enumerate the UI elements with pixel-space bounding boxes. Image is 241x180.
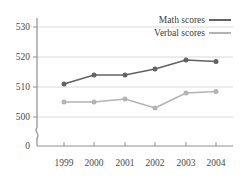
data-point (184, 58, 189, 63)
y-tick-label-520: 520 (16, 52, 31, 62)
data-point (92, 100, 97, 105)
x-tick-label-2003: 2003 (177, 158, 196, 168)
legend-label-math: Math scores (159, 15, 205, 25)
data-point (123, 97, 128, 102)
x-tick-label-2001: 2001 (116, 158, 135, 168)
legend-label-verbal: Verbal scores (154, 28, 205, 38)
y-tick-label-530: 530 (16, 22, 31, 32)
chart-canvas: 530 520 510 500 0 1999 2000 2001 2002 20… (0, 0, 241, 180)
y-tick-label-0: 0 (25, 141, 30, 151)
line-chart: 530 520 510 500 0 1999 2000 2001 2002 20… (0, 0, 241, 180)
data-point (214, 59, 219, 64)
x-tick-label-2004: 2004 (207, 158, 226, 168)
data-point (62, 100, 67, 105)
data-point (123, 73, 128, 78)
x-tick-label-2000: 2000 (85, 158, 104, 168)
data-point (153, 67, 158, 72)
data-point (153, 106, 158, 111)
x-tick-label-1999: 1999 (55, 158, 74, 168)
x-tick-label-2002: 2002 (146, 158, 165, 168)
data-point (184, 91, 189, 96)
data-point (62, 82, 67, 87)
data-point (214, 89, 219, 94)
y-tick-label-510: 510 (16, 82, 31, 92)
data-point (92, 73, 97, 78)
y-tick-label-500: 500 (16, 112, 31, 122)
